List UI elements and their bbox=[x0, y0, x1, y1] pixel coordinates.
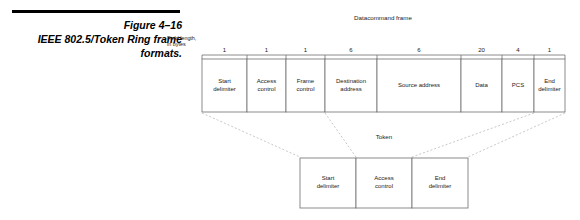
main-frame-cell-label: Frame bbox=[297, 78, 315, 84]
projection-line bbox=[202, 113, 300, 157]
main-frame-length-label: 1 bbox=[548, 47, 552, 53]
token-frame-group: StartdelimiterAccesscontrolEnddelimiter bbox=[300, 158, 468, 208]
figure-container: Figure 4–16 IEEE 802.5/Token Ring frame … bbox=[0, 0, 580, 220]
main-frame-cell-label-line2: address bbox=[340, 86, 361, 92]
main-frame-cell-label-line2: delimiter bbox=[538, 86, 561, 92]
main-frame-length-label: 4 bbox=[516, 47, 520, 53]
main-frame-length-label: 1 bbox=[265, 47, 269, 53]
main-frame-cell-label: PCS bbox=[512, 82, 524, 88]
main-frame-cell-label: End bbox=[544, 78, 555, 84]
token-frame-cell-label-line2: delimiter bbox=[429, 183, 452, 189]
token-frame-cell-label-line2: control bbox=[375, 183, 393, 189]
main-frame-length-label: 20 bbox=[478, 47, 485, 53]
main-frame-length-label: 6 bbox=[417, 47, 421, 53]
token-frame-title: Token bbox=[376, 133, 393, 140]
main-frame-cell-label-line2: control bbox=[296, 86, 314, 92]
main-frame-cell-label: Destination bbox=[336, 78, 366, 84]
token-frame-cell-label-line2: delimiter bbox=[317, 183, 340, 189]
main-frame-length-label: 1 bbox=[304, 47, 308, 53]
projection-line bbox=[468, 113, 565, 157]
projection-line bbox=[325, 113, 356, 157]
length-tick-marks bbox=[202, 55, 565, 59]
token-frame-cell-label: Access bbox=[374, 175, 393, 181]
frame-format-diagram: Datacommand frame 1Startdelimiter1Access… bbox=[0, 0, 580, 220]
main-frame-cell-label: Start bbox=[218, 78, 231, 84]
token-frame-cell-label: End bbox=[435, 175, 446, 181]
main-frame-cell-label-line2: control bbox=[257, 86, 275, 92]
main-frame-length-label: 1 bbox=[223, 47, 227, 53]
main-frame-cell-label: Access bbox=[257, 78, 276, 84]
main-frame-length-label: 6 bbox=[349, 47, 353, 53]
main-frame-cell-label: Data bbox=[475, 82, 488, 88]
main-frame-title: Datacommand frame bbox=[354, 14, 412, 21]
main-frame-cell-label: Source address bbox=[398, 82, 440, 88]
main-frame-group: 1Startdelimiter1Accesscontrol1Framecontr… bbox=[202, 47, 565, 112]
token-frame-cell-label: Start bbox=[322, 175, 335, 181]
main-frame-cell-label-line2: delimiter bbox=[213, 86, 236, 92]
